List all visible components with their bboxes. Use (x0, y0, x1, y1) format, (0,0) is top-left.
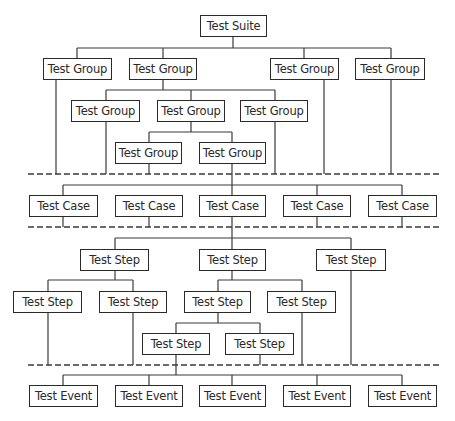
node-test-step: Test Step (267, 291, 336, 313)
node-test-group: Test Group (115, 142, 182, 164)
node-test-step: Test Step (184, 291, 251, 313)
node-test-group: Test Group (71, 100, 140, 122)
node-test-group: Test Group (199, 142, 266, 164)
node-test-suite: Test Suite (200, 15, 267, 37)
node-test-step: Test Step (13, 291, 82, 313)
node-test-event: Test Event (115, 385, 183, 407)
test-hierarchy-diagram: Test SuiteTest GroupTest GroupTest Group… (0, 0, 455, 421)
node-test-step: Test Step (225, 333, 294, 355)
node-test-step: Test Step (316, 249, 386, 271)
node-test-group: Test Group (157, 100, 225, 122)
node-test-group: Test Group (129, 58, 197, 80)
node-test-step: Test Step (99, 291, 167, 313)
node-test-group: Test Group (43, 58, 112, 80)
node-test-case: Test Case (199, 195, 266, 217)
node-test-group: Test Group (240, 100, 308, 122)
node-test-step: Test Step (199, 249, 266, 271)
node-test-event: Test Event (283, 385, 351, 407)
node-test-event: Test Event (199, 385, 266, 407)
node-test-case: Test Case (368, 195, 437, 217)
node-test-step: Test Step (80, 249, 149, 271)
node-test-case: Test Case (29, 195, 98, 217)
node-test-case: Test Case (283, 195, 351, 217)
node-test-group: Test Group (355, 58, 425, 80)
node-test-event: Test Event (29, 385, 98, 407)
node-test-step: Test Step (142, 333, 210, 355)
node-test-case: Test Case (115, 195, 183, 217)
node-test-group: Test Group (270, 58, 339, 80)
node-test-event: Test Event (368, 385, 437, 407)
